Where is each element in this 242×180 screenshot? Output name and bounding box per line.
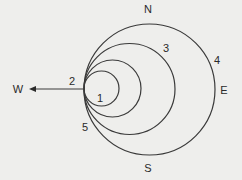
circle-medium: [84, 60, 141, 117]
west-arrow-head-icon: [29, 86, 36, 92]
tangent-circles-diagram: N S E W 1 2 3 4 5: [0, 0, 242, 180]
label-north: N: [144, 3, 152, 15]
label-1: 1: [97, 92, 103, 104]
circle-large: [84, 44, 175, 135]
label-2: 2: [69, 75, 75, 87]
label-5: 5: [82, 121, 88, 133]
label-west: W: [13, 83, 24, 95]
label-4: 4: [214, 54, 220, 66]
circle-outer: [84, 24, 215, 155]
label-east: E: [220, 84, 227, 96]
label-3: 3: [163, 42, 169, 54]
label-south: S: [144, 162, 151, 174]
